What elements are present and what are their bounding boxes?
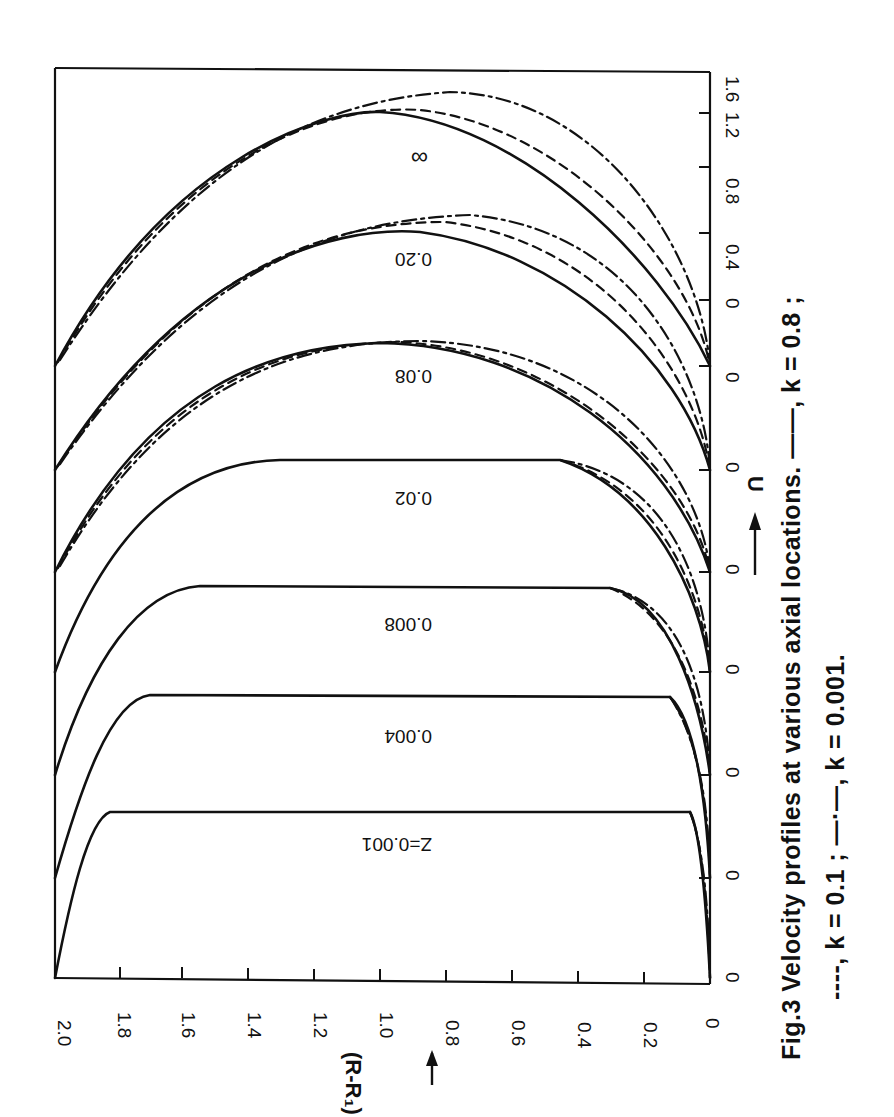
u-tick-label: 0 [722, 767, 743, 778]
x-axis-title-group: (R-R₁) [341, 1050, 438, 1115]
curve-labels: Z=0.001 0.004 0.008 0.02 0.08 0.20 ∞ [362, 145, 432, 855]
u-axis-title: U [743, 476, 768, 492]
profile-z-infinity [55, 92, 710, 366]
u-tick-label: 0 [722, 564, 743, 575]
curve-label-z-infinity: ∞ [411, 145, 428, 172]
x-tick-label: 0 [702, 1018, 723, 1029]
curve-label-z-0008: 0.008 [384, 614, 432, 635]
profile-z-002 [55, 460, 710, 672]
x-tick-label: 1.8 [114, 1012, 135, 1038]
figure-caption: Fig.3 Velocity profiles at various axial… [777, 296, 849, 1060]
u-tick-label: 0 [722, 462, 743, 473]
u-tick-label: 0.4 [722, 244, 743, 271]
velocity-profile-figure: 2.0 1.8 1.6 1.4 1.2 1.0 0.8 0.6 0.4 0.2 … [0, 0, 894, 1117]
u-axis-tick-labels: 0 0 0 0 0 0 0 0.4 0.8 1.2 1.6 0 [722, 76, 743, 983]
x-tick-label: 0.2 [640, 1022, 661, 1048]
u-axis-title-group: U [743, 476, 768, 575]
u-tick-label: 0 [722, 372, 743, 383]
x-tick-label: 1.4 [244, 1012, 265, 1039]
u-tick-label: 1.6 [722, 76, 743, 102]
x-axis-arrow-icon [426, 1050, 438, 1066]
profile-z-0008 [55, 586, 710, 775]
curve-label-z-002: 0.02 [395, 488, 432, 509]
u-tick-label: 1.2 [722, 112, 743, 138]
u-axis-arrow-icon [749, 512, 761, 530]
curve-label-z-0001: Z=0.001 [362, 834, 432, 855]
curve-label-z-020: 0.20 [395, 249, 432, 270]
profile-z-008 [55, 341, 710, 572]
curve-label-z-008: 0.08 [395, 366, 432, 387]
x-tick-label: 1.2 [310, 1012, 331, 1038]
x-tick-label: 0.8 [442, 1020, 463, 1046]
u-tick-label: 0 [722, 870, 743, 881]
u-origin-label: 0 [722, 972, 743, 983]
u-tick-label: 0.8 [722, 178, 743, 204]
x-tick-label: 1.6 [178, 1012, 199, 1038]
u-tick-label: 0 [722, 298, 743, 309]
x-tick-label: 2.0 [54, 1020, 75, 1046]
caption-line-1: Fig.3 Velocity profiles at various axial… [777, 296, 805, 1060]
x-tick-label: 0.4 [574, 1022, 595, 1049]
x-axis-title: (R-R₁) [341, 1052, 366, 1115]
x-tick-label: 1.0 [376, 1012, 397, 1038]
caption-line-2: ----, k = 0.1 ; —·—, k = 0.001. [821, 654, 849, 1000]
curve-label-z-0004: 0.004 [384, 726, 432, 747]
x-axis-tick-labels: 2.0 1.8 1.6 1.4 1.2 1.0 0.8 0.6 0.4 0.2 … [54, 1012, 723, 1049]
x-tick-label: 0.6 [508, 1020, 529, 1046]
u-tick-label: 0 [722, 664, 743, 675]
